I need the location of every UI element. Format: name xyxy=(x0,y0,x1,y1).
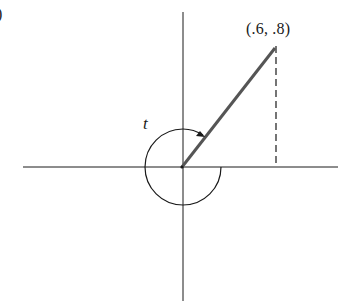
corner-glyph: ) xyxy=(0,5,2,23)
point-label: (.6, .8) xyxy=(246,20,290,38)
origin-point xyxy=(180,165,183,168)
angle-label: t xyxy=(143,114,148,134)
terminal-ray xyxy=(182,48,275,167)
diagram-svg xyxy=(0,0,340,301)
